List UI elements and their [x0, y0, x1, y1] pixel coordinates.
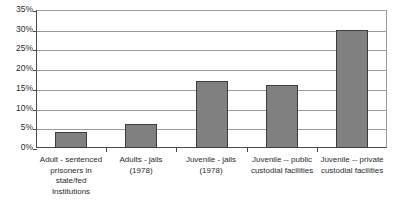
- x-axis-tick-mark: [247, 148, 248, 152]
- x-axis-category-label: Juvenile -- private custodial facilities: [317, 155, 387, 176]
- gridline: [37, 31, 386, 32]
- bar: [125, 124, 157, 148]
- y-axis-tick-label: 0%: [1, 143, 33, 152]
- y-axis-tick-mark: [33, 50, 37, 51]
- bar: [336, 30, 368, 148]
- y-axis-tick-mark: [33, 110, 37, 111]
- y-axis-tick-mark: [33, 90, 37, 91]
- x-axis-tick-mark: [106, 148, 107, 152]
- x-axis-tick-mark: [176, 148, 177, 152]
- y-axis-tick-mark: [33, 149, 37, 150]
- y-axis-tick-label: 30%: [1, 25, 33, 34]
- y-axis-label-group: 35%30%25%20%15%10%5%0%: [0, 0, 33, 217]
- gridline: [37, 50, 386, 51]
- y-axis-tick-label: 35%: [1, 5, 33, 14]
- x-axis-category-label: Adult - sentenced prisoners in state/fed…: [36, 155, 106, 197]
- bar: [196, 81, 228, 148]
- x-axis-tick-mark: [317, 148, 318, 152]
- y-axis-tick-label: 15%: [1, 84, 33, 93]
- bar: [55, 132, 87, 148]
- y-axis-tick-mark: [33, 31, 37, 32]
- bar: [266, 85, 298, 148]
- y-axis-tick-mark: [33, 129, 37, 130]
- x-axis-category-label: Adults - jails (1978): [106, 155, 176, 176]
- x-axis-category-label: Juvenile -- public custodial facilities: [247, 155, 317, 176]
- gridline: [37, 70, 386, 71]
- y-axis-tick-label: 5%: [1, 123, 33, 132]
- y-axis-tick-label: 10%: [1, 104, 33, 113]
- y-axis-tick-mark: [33, 70, 37, 71]
- x-axis-category-label: Juvenile - jails (1978): [176, 155, 246, 176]
- bar-chart: 35%30%25%20%15%10%5%0% Adult - sentenced…: [0, 0, 397, 217]
- y-axis-tick-label: 20%: [1, 64, 33, 73]
- y-axis-tick-mark: [33, 11, 37, 12]
- y-axis-tick-label: 25%: [1, 44, 33, 53]
